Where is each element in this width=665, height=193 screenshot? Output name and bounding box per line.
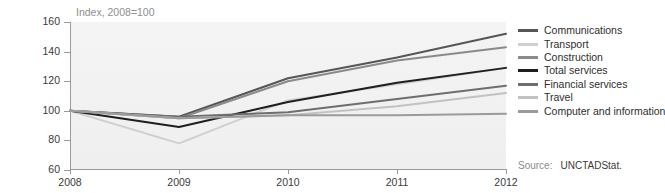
legend-color-swatch (518, 43, 538, 46)
x-axis-tick-label: 2009 (167, 176, 190, 188)
legend-item-label: Communications (544, 25, 622, 36)
source-note: Source:UNCTADStat. (518, 160, 622, 171)
legend-item-label: Construction (544, 52, 603, 63)
legend-item-label: Computer and information (544, 106, 665, 117)
y-axis-line (70, 22, 71, 170)
legend-item-label: Total services (544, 65, 608, 76)
legend-item[interactable]: Construction (518, 51, 653, 64)
legend-item[interactable]: Communications (518, 24, 653, 37)
x-axis-tick-label: 2010 (276, 176, 299, 188)
legend-item-label: Financial services (544, 79, 627, 90)
y-axis-tick-label: 140 (14, 46, 60, 57)
legend-item[interactable]: Transport (518, 37, 653, 50)
x-axis-tick (70, 169, 71, 174)
y-axis-tick (64, 22, 70, 23)
legend-item-label: Travel (544, 92, 573, 103)
y-axis-tick (64, 140, 70, 141)
legend-item[interactable]: Travel (518, 91, 653, 104)
legend-color-swatch (518, 56, 538, 59)
x-axis-tick-label: 2011 (386, 176, 409, 188)
legend-item[interactable]: Financial services (518, 78, 653, 91)
legend-item[interactable]: Computer and information (518, 104, 653, 117)
legend-color-swatch (518, 83, 538, 86)
y-axis-tick-label: 160 (14, 16, 60, 27)
y-axis-tick-label: 100 (14, 105, 60, 116)
x-axis-tick (179, 169, 180, 174)
legend: CommunicationsTransportConstructionTotal… (518, 24, 653, 118)
plot-area-background (70, 22, 506, 170)
x-axis-tick-label: 2008 (58, 176, 81, 188)
y-axis-tick (64, 52, 70, 53)
plot-title: Index, 2008=100 (76, 6, 155, 18)
plot-area-gradient (70, 22, 506, 170)
legend-item-label: Transport (544, 39, 589, 50)
legend-item[interactable]: Total services (518, 64, 653, 77)
x-axis-tick (506, 169, 507, 174)
y-axis-tick (64, 81, 70, 82)
legend-color-swatch (518, 29, 538, 32)
legend-color-swatch (518, 96, 538, 99)
x-axis-tick (288, 169, 289, 174)
x-axis-tick (397, 169, 398, 174)
source-label: Source: (518, 160, 552, 171)
x-axis-tick-label: 2012 (494, 176, 517, 188)
y-axis-tick-label: 80 (14, 134, 60, 145)
y-axis-tick-label: 120 (14, 75, 60, 86)
y-axis-tick (64, 111, 70, 112)
legend-color-swatch (518, 69, 538, 72)
legend-color-swatch (518, 110, 538, 113)
source-value: UNCTADStat. (560, 160, 622, 171)
y-axis-tick-label: 60 (14, 164, 60, 175)
